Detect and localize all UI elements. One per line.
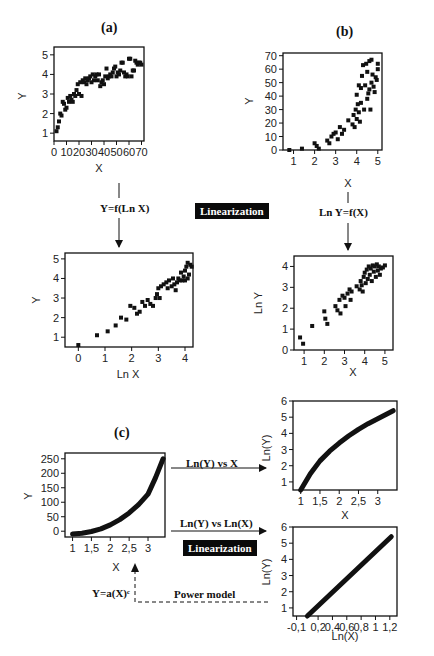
svg-text:5: 5: [281, 537, 287, 549]
svg-text:0: 0: [282, 344, 288, 356]
figure-canvas: 01020304050607012345XY123450102030405060…: [0, 0, 434, 656]
svg-text:X: X: [95, 162, 103, 174]
svg-text:3: 3: [375, 495, 381, 507]
svg-text:1: 1: [69, 542, 75, 554]
svg-text:Ln(Y): Ln(Y): [260, 435, 272, 462]
svg-text:100: 100: [41, 496, 59, 508]
svg-text:2: 2: [282, 302, 288, 314]
svg-text:2: 2: [336, 495, 342, 507]
svg-text:1: 1: [282, 323, 288, 335]
svg-text:3: 3: [282, 281, 288, 293]
svg-text:1: 1: [281, 602, 287, 614]
svg-text:Y: Y: [22, 492, 34, 500]
svg-text:Y: Y: [243, 97, 255, 105]
plot-b_bottom: 1234501234XLn Y: [252, 256, 393, 378]
svg-text:1: 1: [298, 495, 304, 507]
svg-text:2: 2: [129, 352, 135, 364]
svg-text:4: 4: [354, 155, 360, 167]
svg-text:5: 5: [53, 253, 59, 265]
svg-text:40: 40: [265, 90, 277, 102]
svg-text:1,5: 1,5: [84, 542, 99, 554]
svg-text:70: 70: [135, 146, 147, 158]
svg-text:50: 50: [47, 511, 59, 523]
svg-text:3: 3: [281, 444, 287, 456]
plot-c_top_right: 11,522,53123456XLn(Y): [260, 395, 397, 521]
svg-text:Y: Y: [30, 296, 42, 304]
svg-text:2: 2: [42, 108, 48, 120]
svg-text:X: X: [341, 509, 349, 521]
svg-text:3: 3: [281, 570, 287, 582]
flow-arrows: [119, 183, 348, 602]
svg-text:4: 4: [53, 272, 59, 284]
svg-text:4: 4: [281, 427, 287, 439]
svg-text:40: 40: [98, 146, 110, 158]
svg-text:1,5: 1,5: [312, 495, 327, 507]
svg-text:4: 4: [282, 260, 288, 272]
svg-text:2: 2: [107, 542, 113, 554]
svg-text:30: 30: [85, 146, 97, 158]
svg-text:1: 1: [53, 331, 59, 343]
plot-c_bottom_right: -0,10,20,40,60,811,2123456Ln(X)Ln(Y): [260, 521, 397, 642]
svg-text:Ln(X): Ln(X): [332, 630, 359, 642]
svg-text:X: X: [112, 561, 120, 573]
svg-text:60: 60: [123, 146, 135, 158]
svg-text:50: 50: [265, 77, 277, 89]
svg-text:1: 1: [102, 352, 108, 364]
svg-text:0: 0: [271, 144, 277, 156]
svg-text:4: 4: [182, 352, 188, 364]
svg-text:200: 200: [41, 467, 59, 479]
svg-text:Ln Y: Ln Y: [252, 291, 264, 314]
svg-text:10: 10: [265, 131, 277, 143]
svg-text:3: 3: [341, 355, 347, 367]
svg-text:3: 3: [333, 155, 339, 167]
svg-text:3: 3: [155, 352, 161, 364]
svg-text:3: 3: [145, 542, 151, 554]
svg-text:3: 3: [53, 292, 59, 304]
svg-text:Ln X: Ln X: [117, 368, 140, 380]
svg-text:6: 6: [281, 521, 287, 533]
svg-text:10: 10: [60, 146, 72, 158]
svg-text:0: 0: [51, 146, 57, 158]
svg-text:1: 1: [290, 155, 296, 167]
plot-a_top: 01020304050607012345XY: [16, 47, 148, 174]
svg-text:X: X: [349, 366, 357, 378]
plot-c_left: 11,522,53050100150200250XY: [22, 453, 165, 573]
svg-text:30: 30: [265, 104, 277, 116]
svg-text:2,5: 2,5: [351, 495, 366, 507]
plot-a_bottom: 0123412345Ln XY: [30, 253, 194, 380]
svg-text:2: 2: [281, 586, 287, 598]
svg-text:1: 1: [42, 127, 48, 139]
svg-text:Y: Y: [16, 92, 28, 100]
svg-text:X: X: [344, 177, 352, 189]
plot-b_top: 12345010203040506070XY: [243, 50, 382, 189]
svg-text:0,2: 0,2: [310, 621, 325, 633]
svg-text:4: 4: [42, 68, 48, 80]
svg-text:2: 2: [281, 460, 287, 472]
svg-text:0: 0: [53, 525, 59, 537]
svg-text:70: 70: [265, 50, 277, 62]
svg-text:2: 2: [312, 155, 318, 167]
svg-text:20: 20: [265, 117, 277, 129]
svg-text:Ln(Y): Ln(Y): [260, 559, 272, 586]
svg-text:5: 5: [375, 155, 381, 167]
svg-text:4: 4: [362, 355, 368, 367]
svg-text:1,2: 1,2: [382, 621, 397, 633]
svg-text:20: 20: [73, 146, 85, 158]
svg-text:150: 150: [41, 482, 59, 494]
svg-text:50: 50: [110, 146, 122, 158]
svg-text:2: 2: [53, 312, 59, 324]
svg-text:0: 0: [75, 352, 81, 364]
svg-text:5: 5: [42, 49, 48, 61]
svg-text:1: 1: [301, 355, 307, 367]
svg-text:2,5: 2,5: [122, 542, 137, 554]
svg-text:3: 3: [42, 88, 48, 100]
svg-text:1: 1: [281, 476, 287, 488]
svg-text:5: 5: [281, 411, 287, 423]
svg-text:5: 5: [382, 355, 388, 367]
svg-text:250: 250: [41, 453, 59, 465]
svg-text:6: 6: [281, 395, 287, 407]
svg-text:60: 60: [265, 63, 277, 75]
svg-text:4: 4: [281, 553, 287, 565]
svg-text:1: 1: [372, 621, 378, 633]
svg-text:-0,1: -0,1: [287, 621, 306, 633]
